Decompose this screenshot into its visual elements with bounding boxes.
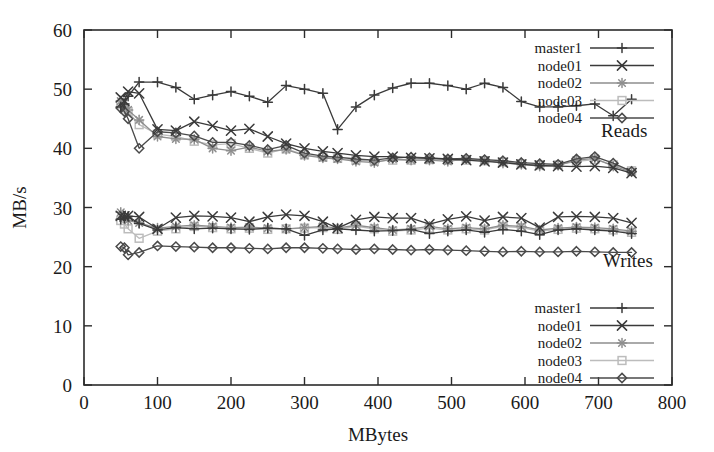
x-axis-title: MBytes: [348, 424, 408, 445]
legend-label-node04: node04: [538, 110, 583, 126]
x-tick-label: 500: [437, 392, 466, 413]
data-point-marker: [171, 134, 180, 143]
legend-label-node01: node01: [538, 58, 582, 74]
x-tick-label: 400: [364, 392, 393, 413]
x-tick-label: 0: [79, 392, 89, 413]
data-point-marker: [135, 115, 144, 124]
legend-label-node04: node04: [538, 370, 583, 386]
legend-label-master1: master1: [535, 300, 582, 316]
y-tick-label: 30: [53, 198, 72, 219]
chart-figure: 01002003004005006007008000102030405060MB…: [0, 0, 714, 452]
annotation-reads: Reads: [601, 120, 647, 141]
data-point-marker: [617, 338, 626, 347]
x-tick-label: 300: [290, 392, 319, 413]
legend-label-node01: node01: [538, 318, 582, 334]
x-tick-label: 600: [511, 392, 540, 413]
data-point-marker: [208, 144, 217, 153]
legend-label-master1: master1: [535, 40, 582, 56]
legend-label-node03: node03: [538, 93, 582, 109]
x-tick-label: 700: [584, 392, 613, 413]
y-tick-label: 50: [53, 79, 72, 100]
x-tick-label: 800: [658, 392, 687, 413]
legend-label-node02: node02: [538, 335, 582, 351]
y-tick-label: 20: [53, 257, 72, 278]
y-tick-label: 60: [53, 20, 72, 41]
y-tick-label: 40: [53, 138, 72, 159]
legend-label-node02: node02: [538, 75, 582, 91]
line-chart: 01002003004005006007008000102030405060MB…: [0, 0, 714, 452]
y-tick-label: 10: [53, 316, 72, 337]
annotation-writes: Writes: [603, 250, 653, 271]
x-tick-label: 100: [143, 392, 172, 413]
x-tick-label: 200: [217, 392, 246, 413]
y-axis-title: MB/s: [9, 186, 30, 228]
legend-label-node03: node03: [538, 353, 582, 369]
y-tick-label: 0: [63, 375, 73, 396]
data-point-marker: [617, 78, 626, 87]
